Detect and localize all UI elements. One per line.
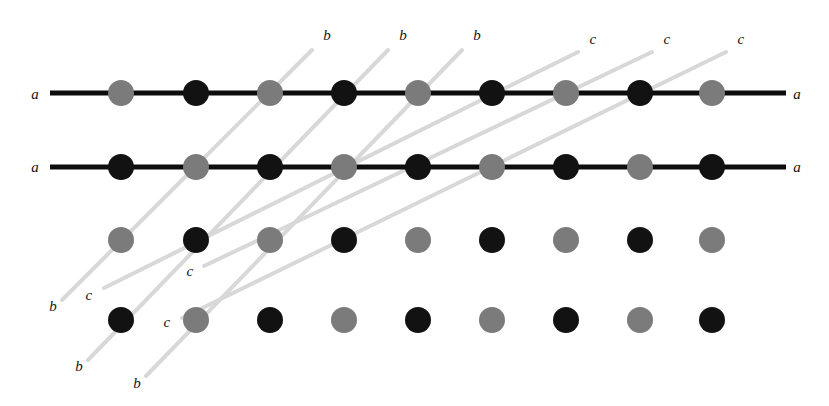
plane-label-c-end-2: c [738,32,745,47]
plane-label-a-left-1: a [31,160,39,175]
plane-label-b-end-2: b [473,28,481,43]
plane-label-b-start-2: b [133,376,141,391]
plane-label-c-start-2: c [164,315,171,330]
plane-label-b-end-0: b [323,28,331,43]
plane-label-a-right-0: a [793,87,801,102]
lattice-plane-figure: aaaabbbbbbcccccc [0,0,829,406]
plane-labels-layer: aaaabbbbbbcccccc [0,0,829,406]
plane-label-a-right-1: a [793,160,801,175]
plane-label-b-end-1: b [399,28,407,43]
plane-label-c-end-1: c [664,32,671,47]
plane-label-a-left-0: a [31,87,39,102]
plane-label-c-start-1: c [187,264,194,279]
plane-label-b-start-0: b [49,299,57,314]
plane-label-c-start-0: c [86,288,93,303]
plane-label-b-start-1: b [75,359,83,374]
plane-label-c-end-0: c [590,32,597,47]
